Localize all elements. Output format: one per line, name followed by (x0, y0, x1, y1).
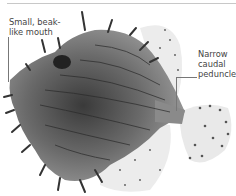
mouth-label: Small, beak- like mouth (9, 17, 69, 37)
peduncle-label-line3: peduncle (198, 69, 236, 79)
head-patch (53, 55, 71, 69)
peduncle-label-line1: Narrow (198, 49, 236, 59)
caudal-fin (180, 105, 232, 163)
mouth-leader-line (8, 37, 9, 82)
mouth-label-line2: like mouth (9, 27, 69, 37)
peduncle-label: Narrow caudal peduncle (198, 49, 236, 79)
peduncle-label-line2: caudal (198, 59, 236, 69)
mouth-label-line1: Small, beak- (9, 17, 69, 27)
peduncle-leader-vertical (176, 77, 177, 111)
peduncle-leader-horizontal (176, 77, 197, 78)
